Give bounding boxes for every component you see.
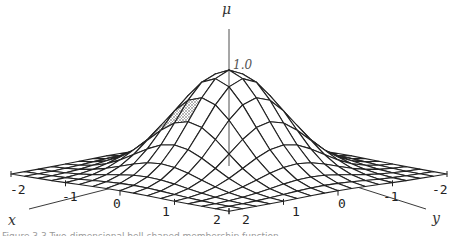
x-tick-label: 0 — [113, 197, 121, 210]
y-tick-label: 2 — [242, 213, 250, 226]
y-tick-label: -1 — [383, 190, 399, 203]
y-tick-label: 1 — [292, 205, 300, 218]
y-tick-label: -2 — [432, 183, 448, 196]
x-tick-label: 2 — [213, 213, 221, 226]
x-tick-label: -2 — [10, 183, 26, 196]
membership-surface-figure: μ 1.0 x y -2 -1 0 1 2 2 1 0 -1 -2 Figure… — [0, 0, 455, 236]
z-axis-label: μ — [222, 2, 231, 16]
y-axis-label: y — [432, 211, 440, 225]
x-tick-label: 1 — [162, 205, 170, 218]
x-tick-label: -1 — [62, 190, 78, 203]
x-axis-label: x — [8, 213, 16, 227]
y-tick-label: 0 — [338, 197, 346, 210]
figure-caption: Figure 3.3 Two-dimensional bell-shaped m… — [2, 229, 453, 236]
peak-value-label: 1.0 — [233, 59, 252, 71]
